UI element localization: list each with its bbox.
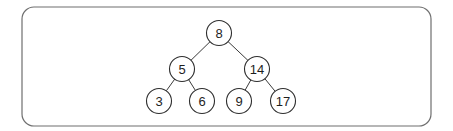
node-label: 14	[250, 62, 264, 77]
tree-node-17: 17	[271, 89, 296, 114]
tree-node-6: 6	[190, 89, 215, 114]
node-label: 17	[276, 94, 290, 109]
node-label: 5	[178, 62, 185, 77]
node-label: 9	[235, 94, 242, 109]
tree-diagram: 851436917	[0, 0, 453, 131]
tree-node-14: 14	[245, 57, 270, 82]
tree-node-3: 3	[147, 89, 172, 114]
node-label: 3	[155, 94, 162, 109]
node-label: 8	[215, 26, 222, 41]
tree-node-8: 8	[207, 21, 232, 46]
node-label: 6	[198, 94, 205, 109]
tree-node-5: 5	[170, 57, 195, 82]
tree-node-9: 9	[227, 89, 252, 114]
